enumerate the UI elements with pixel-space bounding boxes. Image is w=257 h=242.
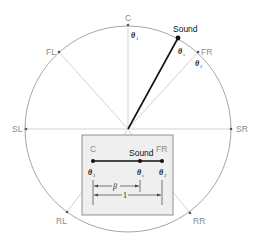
label-rl: RL — [56, 216, 67, 226]
label-sound: Sound — [173, 24, 198, 34]
inset-label-fr: FR — [156, 144, 167, 154]
inset-dot-fr — [160, 159, 164, 163]
line-rear-stub-l — [124, 129, 128, 135]
sound-vector — [128, 38, 178, 129]
svg-text:2: 2 — [200, 64, 203, 69]
inset-label-c: C — [90, 144, 96, 154]
speaker-dot-c — [127, 24, 130, 27]
svg-text:1: 1 — [136, 36, 138, 41]
svg-text:1: 1 — [93, 173, 95, 178]
label-fl: FL — [46, 47, 56, 57]
speaker-dot-rl — [66, 211, 69, 214]
inset-panel: C FR Sound θ 1 θ s θ 2 β — [82, 135, 173, 215]
line-fl — [59, 52, 128, 129]
label-c: C — [125, 13, 131, 23]
inset-dot-c — [91, 159, 95, 163]
label-rr: RR — [193, 216, 205, 226]
line-rear-stub-r — [128, 129, 132, 135]
speaker-dot-sr — [230, 128, 233, 131]
line-rl — [67, 192, 82, 212]
label-sr: SR — [236, 124, 248, 134]
panning-diagram: C FL FR SL SR RL RR Sound θ 1 θ s θ 2 C … — [0, 0, 257, 242]
inset-dot-sound — [138, 159, 142, 163]
label-sl: SL — [12, 124, 23, 134]
line-rr — [173, 192, 190, 213]
speaker-dot-sl — [25, 128, 28, 131]
speaker-dot-fl — [58, 51, 61, 54]
inset-label-sound: Sound — [129, 148, 154, 158]
speaker-dot-rr — [189, 212, 192, 215]
label-fr: FR — [201, 47, 212, 57]
svg-text:1: 1 — [123, 191, 127, 200]
svg-text:s: s — [183, 52, 185, 57]
sound-dot — [176, 36, 181, 41]
speaker-dot-fr — [197, 51, 200, 54]
theta2-label: θ 2 — [195, 59, 203, 69]
line-fr — [128, 52, 198, 129]
svg-text:β: β — [112, 182, 117, 191]
theta1-label: θ 1 — [131, 31, 138, 41]
svg-text:s: s — [142, 173, 144, 178]
thetas-label: θ s — [178, 47, 185, 57]
